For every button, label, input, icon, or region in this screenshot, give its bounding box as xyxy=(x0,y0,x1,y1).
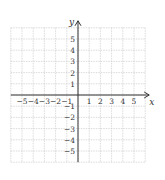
y-tick-label: −2 xyxy=(64,113,75,122)
x-axis-label: x xyxy=(149,97,154,107)
x-tick-label: −2 xyxy=(50,97,61,106)
x-tick-label: −5 xyxy=(16,97,27,106)
y-tick-label: −4 xyxy=(64,136,75,145)
y-tick-label: −1 xyxy=(64,102,75,111)
y-tick-label: −5 xyxy=(64,147,75,156)
coordinate-plane: xy−5−4−3−2−11234554321−1−2−3−4−5 xyxy=(0,0,165,180)
y-tick-label: −3 xyxy=(64,125,75,134)
y-tick-label: 2 xyxy=(70,69,75,78)
tick-labels: xy−5−4−3−2−11234554321−1−2−3−4−5 xyxy=(16,17,154,156)
y-tick-label: 1 xyxy=(70,80,75,89)
x-tick-label: 3 xyxy=(109,97,114,106)
x-tick-label: −4 xyxy=(28,97,39,106)
axes xyxy=(11,21,149,162)
x-tick-label: −3 xyxy=(39,97,50,106)
x-tick-label: 2 xyxy=(98,97,103,106)
y-tick-label: 4 xyxy=(70,46,75,55)
y-tick-label: 5 xyxy=(70,35,75,44)
x-tick-label: 1 xyxy=(87,97,92,106)
y-axis-label: y xyxy=(68,17,75,27)
y-tick-label: 3 xyxy=(70,57,75,66)
x-tick-label: 5 xyxy=(132,97,137,106)
x-tick-label: 4 xyxy=(120,97,125,106)
